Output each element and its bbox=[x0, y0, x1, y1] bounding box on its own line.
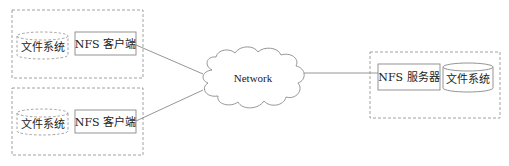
client-group-2: 文件系统 NFS 客户端 bbox=[12, 88, 143, 155]
link-client-1-network bbox=[136, 45, 203, 74]
client-2-filesystem-cylinder: 文件系统 bbox=[17, 109, 68, 135]
nfs-diagram: 文件系统 NFS 客户端 文件系统 NFS 客户端 Network NFS 服 bbox=[0, 0, 509, 166]
client-1-nfs-client-label: NFS 客户端 bbox=[75, 37, 136, 51]
client-2-filesystem-label: 文件系统 bbox=[21, 117, 65, 131]
client-2-nfs-client-label: NFS 客户端 bbox=[75, 115, 136, 129]
server-nfs-box: NFS 服务器 bbox=[378, 64, 440, 90]
network-cloud-icon: Network bbox=[203, 47, 304, 108]
server-filesystem-label: 文件系统 bbox=[446, 72, 490, 86]
server-nfs-label: NFS 服务器 bbox=[378, 71, 439, 84]
client-group-1: 文件系统 NFS 客户端 bbox=[12, 10, 143, 78]
server-filesystem-cylinder: 文件系统 bbox=[443, 63, 493, 92]
link-client-2-network bbox=[136, 90, 203, 121]
client-2-nfs-client-box: NFS 客户端 bbox=[75, 110, 136, 133]
network-label: Network bbox=[234, 72, 273, 84]
server-group: NFS 服务器 文件系统 bbox=[370, 52, 500, 118]
client-1-nfs-client-box: NFS 客户端 bbox=[75, 32, 136, 55]
client-1-filesystem-label: 文件系统 bbox=[21, 40, 65, 54]
client-1-filesystem-cylinder: 文件系统 bbox=[17, 32, 68, 59]
